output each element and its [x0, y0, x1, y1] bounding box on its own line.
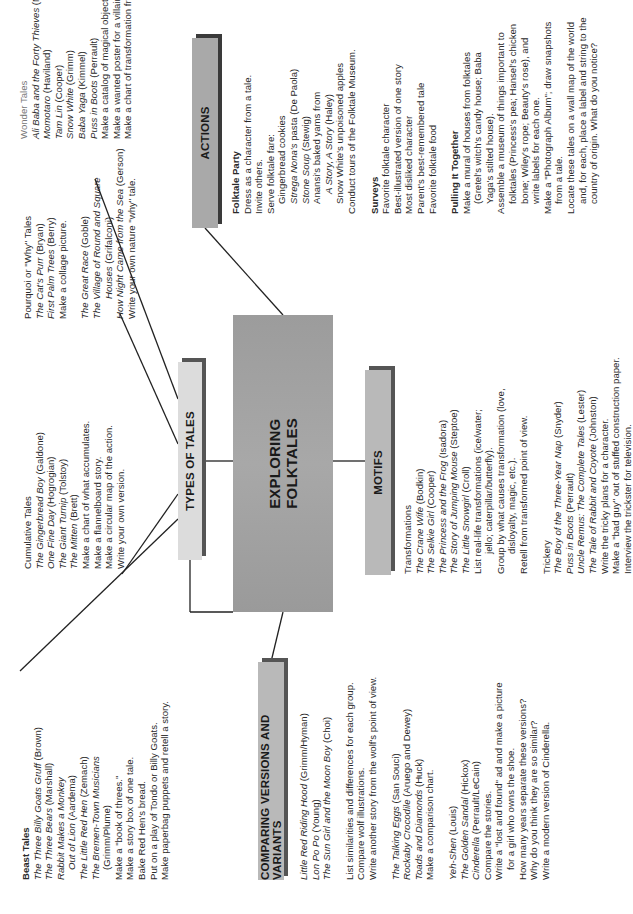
title-line: The Great Race (Goble) [79, 148, 91, 319]
title-line: How Night Came from the Sea (Gerson) [114, 148, 126, 319]
title-line: Baba Yaga (Kimmel) [76, 0, 88, 139]
survey-line: Best-illustrated version of one story [392, 17, 404, 214]
activity-line: How many years separate these versions? [517, 677, 529, 880]
activity-line: Retell from transformed point of view. [518, 357, 530, 574]
activity-line: bone; Wiley's rope; Beauty's rose), and [519, 17, 531, 214]
title-line: Toads and Diamonds (Huck) [413, 677, 425, 880]
title-line: Lon Po Po (Young) [310, 677, 322, 880]
activity-line: Make a mural of houses from folktales [461, 17, 473, 214]
activity-line: write labels for each one. [530, 17, 542, 214]
activity-line: Make a circular map of the action. [103, 421, 115, 569]
group-heading: Pourquoi or "Why" Tales [22, 148, 34, 319]
title-line: The Talking Eggs (San Souci) [390, 677, 402, 880]
activity-line: jello; caterpillar/butterfly). [483, 357, 495, 574]
link-center-actions [205, 228, 283, 315]
activity-line: Gingerbread cookies [276, 17, 288, 214]
activity-line: Write another story from the wolf's poin… [367, 677, 379, 880]
activity-line: Invite others. [253, 17, 265, 214]
title-line: Uncle Remus: The Complete Tales (Lester) [575, 357, 587, 574]
activity-line: country of origin. What do you notice? [588, 17, 600, 214]
title-line: First Palm Trees (Berry) [45, 148, 57, 319]
title-line: Stone Soup (Stewig) [300, 17, 312, 214]
title-line: The Giant Turnip (Tolstoy) [57, 421, 69, 569]
title-line: Houses (Grifalconi) [103, 148, 115, 319]
title-line: Ali Baba and the Forty Thieves (McVitty) [30, 0, 42, 139]
title-line: The Story of Jumping Mouse (Steptoe) [448, 357, 460, 574]
title-line: Little Red Riding Hood (Grimm/Hyman) [298, 677, 310, 880]
branch-motifs: MOTIFS [365, 370, 391, 575]
motifs-group: Transformations The Crane Wife (Bodkin) … [402, 357, 633, 574]
activity-line: Compare wolf illustrations. [355, 677, 367, 880]
activity-line: (Gretel's witch's candy house; Baba [472, 17, 484, 214]
activity-line: Yaga's stilted house). [484, 17, 496, 214]
actions-group: Folktale Party Dress as a character from… [230, 17, 600, 214]
activity-line: from a tale. [553, 17, 565, 214]
activity-line: Make a "book of threes." [113, 701, 125, 880]
activity-line: Snow White's unpoisoned apples [334, 17, 346, 214]
title-line: Cinderella (Perrault/LeCain) [470, 677, 482, 880]
comparing-group: Little Red Riding Hood (Grimm/Hyman) Lon… [298, 677, 551, 880]
title-line: The Three Billy Goats Gruff (Brown) [32, 701, 44, 880]
title-line: The Cat's Purr (Bryan) [34, 148, 46, 319]
branch-label: COMPARING VERSIONS AND VARIANTS [259, 662, 283, 880]
title-line: The Princess and the Frog (Isadora) [437, 357, 449, 574]
activity-line: Make a catalog of magical objects. [99, 0, 111, 139]
activity-line: Write a modern version of Cinderella. [540, 677, 552, 880]
title-line: The Selkie Girl (Cooper) [425, 357, 437, 574]
title-line: Puss in Boots (Perrault) [88, 0, 100, 139]
cumulative-tales-group: Cumulative Tales The Gingerbread Boy (Ga… [22, 421, 126, 569]
title-line: Puss in Boots (Perrault) [564, 357, 576, 574]
activity-line: Make a comparison chart. [424, 677, 436, 880]
activity-line: Write your own version. [115, 421, 127, 569]
branch-comparing: COMPARING VERSIONS AND VARIANTS [258, 662, 284, 880]
branch-label: ACTIONS [199, 106, 211, 159]
center-topic: EXPLORING FOLKTALES [233, 315, 333, 612]
title-line: Momotaro (Haviland) [41, 0, 53, 139]
title-line: The Tale of Rabbit and Coyote (Johnston) [587, 357, 599, 574]
title-line: Rabbit Makes a Monkey [55, 701, 67, 880]
center-line-2: FOLKTALES [283, 418, 300, 509]
branch-label: MOTIFS [372, 450, 384, 495]
activity-line: folktales (Princess's pea; Hansel's chic… [507, 17, 519, 214]
activity-line: Make a flannelboard story. [92, 421, 104, 569]
activity-line: List similarities and differences for ea… [344, 677, 356, 880]
activity-line: Locate these tales on a wall map of the … [565, 17, 577, 214]
group-heading: Beast Tales [20, 701, 32, 880]
activity-line: Serve folktale fare: [265, 17, 277, 214]
activity-line: Put on a play of Tondo or Billy Goats. [148, 701, 160, 880]
group-heading: Pulling It Together [449, 17, 461, 214]
center-line-1: EXPLORING [266, 418, 283, 509]
title-line: The Little Snowgirl (Croll) [460, 357, 472, 574]
activity-line: Write your own nature "why" tale. [126, 148, 138, 319]
survey-line: Parent's best-remembered tale [415, 17, 427, 214]
title-line: Snow White (Grimm) [64, 0, 76, 139]
activity-line: Dress as a character from a tale. [242, 17, 254, 214]
title-line: The Boy of the Three-Year Nap (Snyder) [552, 357, 564, 574]
title-line: Rockaby Crocodile (Aruego and Dewey) [401, 677, 413, 880]
link-center-comparing [271, 612, 283, 662]
survey-line: Favorite folktale food [427, 17, 439, 214]
activity-line: Conduct tours of the Folktale Museum. [346, 17, 358, 214]
activity-line: Anansi's baked yams from [311, 17, 323, 214]
activity-line: Why do you think they are so similar? [528, 677, 540, 880]
pourquoi-tales-group: Pourquoi or "Why" Tales The Cat's Purr (… [22, 148, 137, 319]
title-line: The Crane Wife (Bodkin) [414, 357, 426, 574]
activity-line: Group by what causes transformation (lov… [495, 357, 507, 574]
title-line: The Gingerbread Boy (Galdone) [34, 421, 46, 569]
branch-actions: ACTIONS [192, 38, 218, 228]
title-line: One Fine Day (Hogrogian) [45, 421, 57, 569]
activity-line: Make a collage picture. [57, 148, 69, 319]
activity-line: Make a "Photograph Album"; draw snapshot… [542, 17, 554, 214]
activity-line: Write the tricky plans for a character. [599, 357, 611, 574]
activity-line: Make a wanted poster for a villain. [111, 0, 123, 139]
activity-line: List real-life transformations (ice/wate… [472, 357, 484, 574]
activity-line: Make a story box of one tale. [124, 701, 136, 880]
activity-line: and, for each, place a label and string … [577, 17, 589, 214]
title-line: Strega Nona's pasta (De Paola) [288, 17, 300, 214]
title-line: The Three Bears (Marshall) [43, 701, 55, 880]
activity-line: Make a chart of transformation from/to. [122, 0, 134, 139]
group-heading: Transformations [402, 357, 414, 574]
activity-line: Make paperbag puppets and retell a story… [159, 701, 171, 880]
activity-line: Write a "lost and found" ad and make a p… [493, 677, 505, 880]
link-types-pourquoi [120, 314, 178, 444]
